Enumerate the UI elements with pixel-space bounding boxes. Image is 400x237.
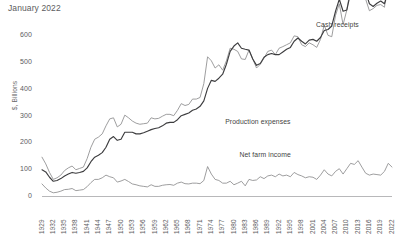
annotation-net-farm-income: Net farm income — [239, 151, 290, 158]
annotation-cash-receipts: Cash receipts — [316, 21, 359, 28]
series-line-net-farm-income — [42, 161, 392, 193]
line-chart-plot — [0, 0, 400, 237]
annotation-production-expenses: Production expenses — [225, 118, 290, 125]
